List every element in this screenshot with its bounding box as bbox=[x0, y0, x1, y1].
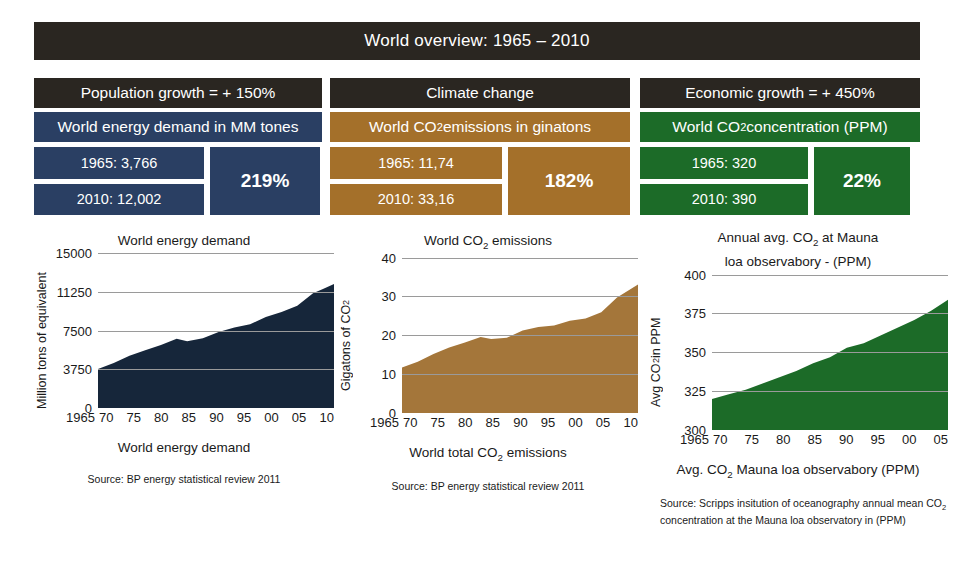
x-tick-label: 10 bbox=[319, 410, 333, 425]
chart-source-text-1: Source: BP energy statistical review 201… bbox=[88, 473, 281, 485]
value-2010-label-3: 2010: 390 bbox=[692, 191, 757, 207]
plot-area-3 bbox=[712, 275, 948, 430]
value-1965-label-3: 1965: 320 bbox=[692, 155, 757, 171]
gridline bbox=[98, 292, 334, 293]
x-tick-label: 00 bbox=[902, 432, 916, 447]
category-header-2: Climate change bbox=[330, 78, 630, 108]
y-axis-label-text-3-sub: 2 bbox=[651, 358, 661, 363]
chart-title-text-3-post: at Mauna bbox=[818, 230, 878, 245]
x-tick-label: 85 bbox=[486, 415, 500, 430]
value-2010-label-2: 2010: 33,16 bbox=[378, 191, 455, 207]
metric-label-3-pre: World CO bbox=[672, 118, 740, 136]
y-ticks-3: 300325350375400 bbox=[664, 275, 710, 430]
chart-title-text-3-pre: Annual avg. CO bbox=[718, 230, 813, 245]
x-tick-label: 10 bbox=[623, 415, 637, 430]
column-population-growth: Population growth = + 150% World energy … bbox=[34, 78, 322, 215]
plot-wrap-1: Million tons of equivalent 0375075001125… bbox=[34, 253, 334, 428]
x-tick-label: 90 bbox=[209, 410, 223, 425]
category-label-3: Economic growth = + 450% bbox=[685, 84, 875, 102]
value-1965-box-2: 1965: 11,74 bbox=[330, 147, 502, 179]
gridline bbox=[712, 391, 948, 392]
gridline bbox=[98, 331, 334, 332]
chart-source-1: Source: BP energy statistical review 201… bbox=[34, 473, 334, 486]
percent-label-3: 22% bbox=[843, 170, 881, 192]
y-tick-label: 15000 bbox=[56, 246, 92, 261]
gridline bbox=[402, 296, 638, 297]
infographic-page: World overview: 1965 – 2010 Population g… bbox=[0, 0, 958, 573]
x-tick-label: 80 bbox=[776, 432, 790, 447]
percent-box-2: 182% bbox=[508, 147, 630, 215]
percent-box-1: 219% bbox=[210, 147, 320, 215]
y-tick-label: 10 bbox=[382, 366, 396, 381]
y-tick-label: 3750 bbox=[63, 362, 92, 377]
x-tick-label: 70 bbox=[403, 415, 417, 430]
value-2010-box-1: 2010: 12,002 bbox=[34, 184, 204, 216]
chart-source-text-3-pre: Source: Scripps insitution of oceanograp… bbox=[660, 497, 942, 509]
x-tick-label: 85 bbox=[807, 432, 821, 447]
x-tick-label: 1965 bbox=[354, 415, 399, 430]
category-header-3: Economic growth = + 450% bbox=[640, 78, 920, 108]
column-climate-change: Climate change World CO2 emissions in gi… bbox=[330, 78, 630, 215]
x-tick-label: 95 bbox=[871, 432, 885, 447]
chart-title-text-1: World energy demand bbox=[118, 233, 251, 248]
y-tick-label: 400 bbox=[684, 267, 706, 282]
x-tick-label: 75 bbox=[126, 410, 140, 425]
chart-caption-text-2-post: emissions bbox=[503, 445, 567, 460]
y-ticks-1: 0375075001125015000 bbox=[50, 253, 96, 408]
x-tick-label: 00 bbox=[264, 410, 278, 425]
value-2010-box-3: 2010: 390 bbox=[640, 184, 808, 216]
area-fill bbox=[98, 284, 334, 408]
chart-caption-1: World energy demand bbox=[34, 440, 334, 455]
chart-caption-text-2-pre: World total CO bbox=[409, 445, 497, 460]
chart-source-text-2: Source: BP energy statistical review 201… bbox=[392, 480, 585, 492]
y-tick-label: 30 bbox=[382, 289, 396, 304]
x-tick-label: 90 bbox=[839, 432, 853, 447]
overview-banner: World overview: 1965 – 2010 bbox=[34, 22, 920, 60]
x-tick-label: 05 bbox=[596, 415, 610, 430]
y-axis-label-1: Million tons of equivalent bbox=[34, 253, 50, 428]
area-fill bbox=[712, 299, 948, 429]
gridline bbox=[98, 369, 334, 370]
x-tick-label: 90 bbox=[513, 415, 527, 430]
y-axis-label-3: Avg CO2 in PPM bbox=[648, 275, 664, 450]
gridline bbox=[712, 313, 948, 314]
value-2010-box-2: 2010: 33,16 bbox=[330, 184, 502, 216]
chart-caption-text-3-pre: Avg. CO bbox=[676, 462, 727, 477]
metric-label-3-post: concentration (PPM) bbox=[746, 118, 887, 136]
x-tick-label: 80 bbox=[154, 410, 168, 425]
x-tick-label: 80 bbox=[458, 415, 472, 430]
percent-label-1: 219% bbox=[241, 170, 290, 192]
plot-area-1 bbox=[98, 253, 334, 408]
value-2010-label-1: 2010: 12,002 bbox=[77, 191, 162, 207]
y-axis-label-text-1: Million tons of equivalent bbox=[35, 272, 49, 409]
metric-label-2-pre: World CO bbox=[369, 118, 437, 136]
values-row-1: 1965: 3,766 2010: 12,002 219% bbox=[34, 147, 322, 215]
chart-title-text-2-pre: World CO bbox=[424, 233, 483, 248]
values-row-3: 1965: 320 2010: 390 22% bbox=[640, 147, 920, 215]
metric-header-3: World CO2 concentration (PPM) bbox=[640, 112, 920, 142]
metric-label-1: World energy demand in MM tones bbox=[58, 118, 299, 136]
x-tick-label: 00 bbox=[568, 415, 582, 430]
x-axis-3: 19657075808590950005 bbox=[664, 432, 948, 447]
gridline bbox=[402, 374, 638, 375]
x-tick-label: 1965 bbox=[664, 432, 709, 447]
chart-title-text-3-line2: loa observabory - (PPM) bbox=[725, 254, 871, 269]
x-tick-label: 75 bbox=[430, 415, 444, 430]
chart-caption-text-3-post: Mauna loa observabory (PPM) bbox=[733, 462, 920, 477]
gridline bbox=[712, 352, 948, 353]
x-tick-label: 70 bbox=[713, 432, 727, 447]
x-tick-label: 95 bbox=[237, 410, 251, 425]
chart-title-text-2-post: emissions bbox=[488, 233, 552, 248]
chart-caption-3: Avg. CO2 Mauna loa observabory (PPM) bbox=[648, 462, 948, 480]
chart-title-3: Annual avg. CO2 at Mauna loa observabory… bbox=[648, 228, 948, 271]
category-header-1: Population growth = + 150% bbox=[34, 78, 322, 108]
y-tick-label: 40 bbox=[382, 250, 396, 265]
metric-header-1: World energy demand in MM tones bbox=[34, 112, 322, 142]
y-axis-label-text-3-pre: Avg CO bbox=[649, 363, 663, 407]
chart-block-energy-demand: World energy demand Million tons of equi… bbox=[34, 232, 334, 486]
y-axis-label-2: Gigatons of CO2 bbox=[338, 258, 354, 433]
x-axis-1: 1965707580859095000510 bbox=[50, 410, 334, 425]
y-tick-label: 7500 bbox=[63, 323, 92, 338]
chart-source-2: Source: BP energy statistical review 201… bbox=[338, 480, 638, 493]
percent-box-3: 22% bbox=[814, 147, 910, 215]
